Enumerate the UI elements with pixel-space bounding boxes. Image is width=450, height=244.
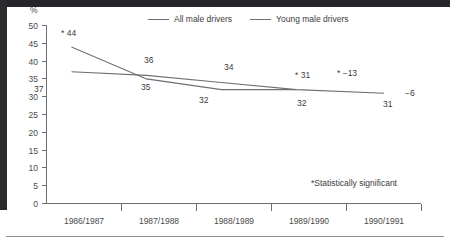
chart-axes bbox=[47, 25, 422, 204]
change-label-young-male-drivers: * −13 bbox=[337, 68, 357, 78]
x-axis-ticks bbox=[122, 204, 422, 212]
y-tick-label: 10 bbox=[14, 163, 38, 173]
x-tick-label: 1987/1988 bbox=[119, 216, 199, 226]
y-tick-label: 15 bbox=[14, 146, 38, 156]
x-tick-label: 1986/1987 bbox=[44, 216, 124, 226]
chart-page: % All male drivers Young male drivers bbox=[0, 0, 450, 244]
x-tick-label: 1988/1989 bbox=[194, 216, 274, 226]
x-tick-label: 1990/1991 bbox=[344, 216, 424, 226]
y-tick-label: 45 bbox=[14, 39, 38, 49]
y-tick-label: 50 bbox=[14, 21, 38, 31]
y-axis-ticks bbox=[42, 26, 47, 204]
data-point-label: * 44 bbox=[61, 28, 76, 38]
y-tick-label: 35 bbox=[14, 74, 38, 84]
data-point-label: 32 bbox=[297, 98, 306, 108]
x-tick-label: 1989/1990 bbox=[269, 216, 349, 226]
change-label-all-male-drivers: −6 bbox=[405, 88, 415, 98]
series-line-young-male-drivers bbox=[72, 47, 297, 90]
data-point-label: 36 bbox=[144, 55, 153, 65]
y-tick-label: 40 bbox=[14, 57, 38, 67]
y-tick-label: 25 bbox=[14, 110, 38, 120]
data-point-label: 35 bbox=[141, 82, 150, 92]
data-point-label: * 31 bbox=[295, 70, 310, 80]
y-tick-label: 5 bbox=[14, 181, 38, 191]
y-tick-label: 0 bbox=[14, 199, 38, 209]
y-tick-label: 20 bbox=[14, 128, 38, 138]
data-point-label: 37 bbox=[34, 84, 43, 94]
data-point-label: 34 bbox=[224, 62, 233, 72]
data-point-label: 32 bbox=[199, 95, 208, 105]
data-point-label: 31 bbox=[383, 99, 392, 109]
significance-footnote: *Statistically significant bbox=[311, 178, 397, 188]
